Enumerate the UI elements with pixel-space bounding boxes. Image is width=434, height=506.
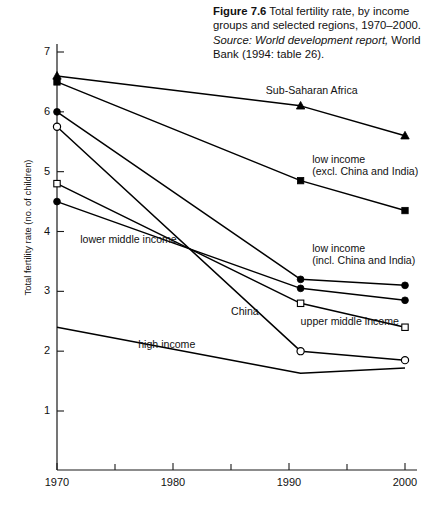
x-tick-label: 1980 bbox=[153, 476, 193, 488]
series-annotation-label: low income bbox=[312, 242, 365, 254]
series-annotation-label: (excl. China and India) bbox=[312, 165, 418, 177]
y-tick-label: 5 bbox=[30, 165, 50, 177]
data-marker-square-open bbox=[297, 300, 303, 306]
data-marker-triangle bbox=[53, 72, 61, 80]
series-line bbox=[57, 82, 405, 211]
x-tick-label: 1990 bbox=[269, 476, 309, 488]
x-tick-label: 2000 bbox=[385, 476, 425, 488]
data-marker-circle-filled bbox=[402, 282, 409, 289]
series-annotation-label: (incl. China and India) bbox=[312, 254, 415, 266]
data-marker-square-filled bbox=[54, 79, 60, 85]
y-tick-label: 3 bbox=[30, 284, 50, 296]
series-line bbox=[57, 327, 405, 373]
y-tick-label: 1 bbox=[30, 404, 50, 416]
data-marker-circle-filled bbox=[402, 297, 409, 304]
data-marker-circle-filled bbox=[297, 285, 304, 292]
y-tick-label: 7 bbox=[30, 45, 50, 57]
series-annotation-label: upper middle income bbox=[301, 315, 399, 327]
data-marker-square-open bbox=[402, 324, 408, 330]
chart-svg bbox=[0, 0, 434, 506]
data-marker-circle-filled bbox=[297, 276, 304, 283]
data-marker-circle-open bbox=[53, 123, 60, 130]
data-marker-circle-open bbox=[401, 357, 408, 364]
chart-plot-area: Total fertility rate (no. of children) 1… bbox=[0, 0, 434, 506]
data-marker-square-filled bbox=[402, 207, 408, 213]
series-annotation-label: China bbox=[231, 305, 259, 317]
data-marker-square-open bbox=[54, 180, 60, 186]
data-marker-circle-open bbox=[297, 348, 304, 355]
y-tick-label: 4 bbox=[30, 225, 50, 237]
series-annotation-label: lower middle income bbox=[80, 233, 177, 245]
series-annotation-label: Sub-Saharan Africa bbox=[266, 84, 358, 96]
data-marker-circle-filled bbox=[54, 198, 61, 205]
series-annotation-label: high income bbox=[138, 338, 195, 350]
y-tick-label: 6 bbox=[30, 105, 50, 117]
data-marker-square-filled bbox=[297, 177, 303, 183]
data-marker-circle-filled bbox=[54, 108, 61, 115]
x-tick-label: 1970 bbox=[37, 476, 77, 488]
series-annotation-label: low income bbox=[312, 153, 365, 165]
y-tick-label: 2 bbox=[30, 344, 50, 356]
